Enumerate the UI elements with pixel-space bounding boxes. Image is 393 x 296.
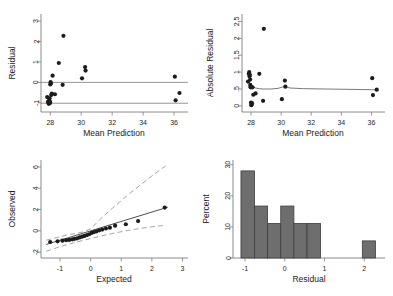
data-point [262,27,266,31]
data-point [83,68,87,72]
x-axis-title: Mean Prediction [83,128,145,138]
x-ticks-group: 2830323436 [46,112,178,126]
data-point [51,74,55,78]
data-point [261,99,265,103]
lowess-curve [248,80,379,90]
data-point [108,226,112,230]
x-tick-label: 0 [283,265,287,272]
y-tick-label: -1 [33,100,40,106]
y-tick-label: 1 [33,60,40,64]
y-tick-label: 1.5 [234,50,241,60]
x-tick-label: 2 [150,265,154,272]
x-ticks-group: -10123 [57,258,185,272]
histogram-bar [268,223,281,258]
y-tick-label: 4 [33,186,40,190]
y-ticks-group: -10123 [33,19,42,106]
data-point [61,83,65,87]
data-point [60,239,64,243]
y-tick-label: 20 [225,192,232,200]
y-tick-label: .5 [234,86,241,92]
scatter-points-group [48,206,167,245]
absolute-residual-chart: 0.511.522.5 2830323436 Mean Prediction A… [197,0,393,148]
x-tick-label: 34 [139,119,147,126]
data-point [253,91,257,95]
data-point [100,227,104,231]
y-axis-title: Residual [7,46,17,79]
x-axis-title: Expected [96,274,132,284]
x-axis-title: Mean Prediction [282,128,344,138]
y-tick-label: 2 [33,40,40,44]
residual-histogram-chart: 0102030 -1012 Residual Percent [197,148,393,296]
histogram-bars-group [241,171,375,258]
residual-vs-prediction-chart: -10123 2830323436 Mean Prediction Residu… [0,0,196,148]
data-point [124,222,128,226]
histogram-bar [254,206,267,258]
x-tick-label: 1 [119,265,123,272]
data-point [370,76,374,80]
x-tick-label: 3 [181,265,185,272]
x-tick-label: -1 [242,265,248,272]
confidence-bands-group [46,166,165,251]
x-ticks-group: -1012 [242,258,367,272]
panel-residual-vs-prediction: -10123 2830323436 Mean Prediction Residu… [0,0,196,148]
x-tick-label: 30 [77,119,85,126]
data-point [248,73,252,77]
x-axis-title: Residual [292,274,325,284]
diagnostics-figure: -10123 2830323436 Mean Prediction Residu… [0,0,393,296]
scatter-points-group [45,34,181,106]
x-tick-label: 2 [362,265,366,272]
y-ticks-group: -20246 [33,165,42,255]
y-ticks-group: 0102030 [225,161,234,260]
data-point [248,77,252,81]
histogram-bar [294,223,307,258]
data-point [371,93,375,97]
data-point [250,101,254,105]
data-point [283,78,287,82]
x-tick-label: 36 [170,119,178,126]
y-axis-title: Absolute Residual [205,29,215,98]
y-axis-title: Percent [201,194,211,224]
histogram-bar [307,223,321,258]
y-tick-label: 6 [33,165,40,169]
histogram-bar [281,206,294,258]
data-point [136,219,140,223]
x-ticks-group: 2830323436 [247,112,375,126]
x-tick-label: 30 [277,119,285,126]
y-tick-label: 0 [225,256,232,260]
data-point [57,61,61,65]
data-point [257,72,261,76]
lowess-curve-group [248,80,379,90]
y-tick-label: 1 [234,70,241,74]
y-tick-label: 3 [33,19,40,23]
data-point [104,226,108,230]
data-point [177,91,181,95]
data-point [53,92,57,96]
panel-absolute-residual-vs-prediction: 0.511.522.5 2830323436 Mean Prediction A… [197,0,393,148]
panel-residual-histogram: 0102030 -1012 Residual Percent [197,148,393,296]
scatter-points-group [246,27,379,108]
y-tick-label: 2 [234,36,241,40]
y-axis-title: Observed [7,190,17,227]
histogram-bar [362,241,375,258]
data-point [55,239,59,243]
x-tick-label: 28 [46,119,54,126]
y-tick-label: 30 [225,161,232,169]
data-point [113,224,117,228]
data-point [48,100,52,104]
data-point [173,75,177,79]
data-point [375,88,379,92]
y-tick-label: 10 [225,223,232,231]
histogram-bar [241,171,255,258]
y-tick-label: 0 [234,104,241,108]
x-tick-label: 36 [368,119,376,126]
y-ticks-group: 0.511.522.5 [234,16,243,107]
x-tick-label: 1 [323,265,327,272]
x-tick-label: 32 [108,119,116,126]
data-point [163,206,167,210]
y-tick-label: 2.5 [234,16,241,26]
data-point [280,97,284,101]
panel-normal-quantile-plot: -20246 -10123 Expected Observed [0,148,196,296]
y-tick-label: -2 [33,249,40,255]
x-tick-label: -1 [57,265,63,272]
x-tick-label: 34 [337,119,345,126]
